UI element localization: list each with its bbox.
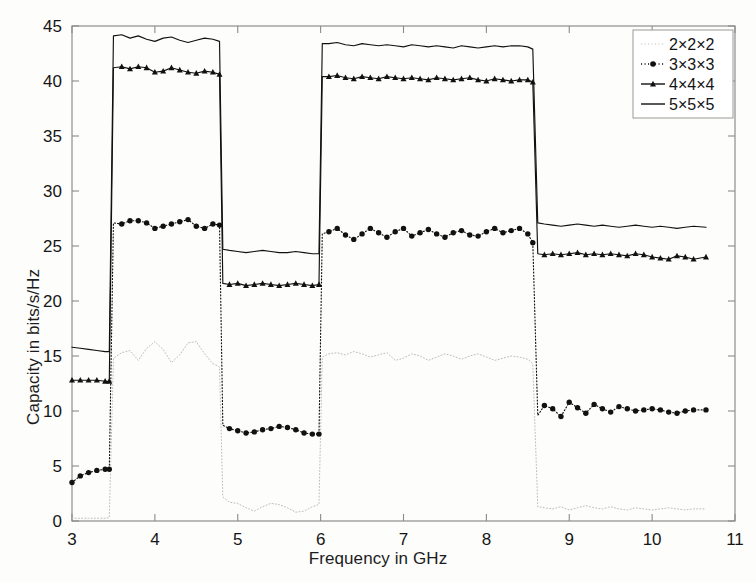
chart-canvas: 345678910110510152025303540452×2×23×3×34… [0,0,756,582]
x-tick-label: 8 [482,530,491,549]
series-marker [160,224,165,229]
series-marker [310,431,315,436]
series-marker [641,407,646,412]
series-marker [567,400,572,405]
series-marker [509,228,514,233]
y-tick-label: 15 [43,347,62,366]
y-axis-title: Capacity in bits/s/Hz [24,269,44,425]
legend-label-2: 3×3×3 [669,56,714,73]
series-marker [185,217,190,222]
series-marker [492,76,498,82]
series-line [72,342,706,519]
series-marker [426,227,431,232]
series-line [72,220,706,483]
series-marker [351,237,356,242]
x-tick-label: 11 [726,530,744,549]
series-marker [384,235,389,240]
legend: 2×2×23×3×34×4×45×5×5 [633,30,733,118]
legend-label-4: 5×5×5 [669,96,714,113]
series-marker [417,230,422,235]
y-tick-label: 20 [43,292,62,311]
x-tick-label: 6 [316,530,325,549]
series-marker [235,428,240,433]
y-tick-label: 30 [43,182,62,201]
series-marker [658,407,663,412]
series-marker [177,219,182,224]
series-marker [467,232,472,237]
y-tick-label: 0 [53,512,62,531]
series-marker [276,424,281,429]
series-marker [703,407,708,412]
x-tick-label: 7 [399,530,408,549]
series-marker [467,75,473,81]
series-1 [72,342,706,519]
series-marker [293,280,299,286]
series-marker [210,221,215,226]
series-marker [78,473,83,478]
series-marker [442,235,447,240]
series-marker [674,411,679,416]
series-marker [335,226,340,231]
series-marker [674,253,680,259]
series-marker [301,430,306,435]
x-axis-title: Frequency in GHz [0,549,756,569]
series-marker [475,233,480,238]
series-marker [260,427,265,432]
series-marker [500,230,505,235]
series-2 [69,217,708,485]
legend-marker-2 [650,61,656,67]
series-marker [135,64,141,70]
series-marker [459,228,464,233]
x-tick-label: 4 [150,530,159,549]
series-marker [492,226,497,231]
series-marker [384,73,390,79]
series-marker [608,251,614,257]
series-marker [343,232,348,237]
series-marker [136,218,141,223]
series-marker [127,218,132,223]
series-marker [591,251,597,257]
series-marker [243,430,248,435]
series-marker [202,226,207,231]
series-marker [285,425,290,430]
series-marker [86,470,91,475]
series-marker [169,221,174,226]
series-marker [368,226,373,231]
series-marker [666,409,671,414]
figure-container: 345678910110510152025303540452×2×23×3×34… [0,0,756,582]
series-marker [168,65,174,71]
series-marker [393,229,398,234]
series-marker [633,408,638,413]
series-marker [359,73,365,79]
series-marker [691,407,696,412]
series-marker [703,254,709,260]
series-marker [525,231,530,236]
x-tick-label: 3 [67,530,76,549]
legend-label-1: 2×2×2 [669,36,714,53]
series-marker [409,233,414,238]
series-marker [235,280,241,286]
series-marker [334,72,340,78]
series-marker [316,431,321,436]
series-marker [550,406,555,411]
series-marker [401,226,406,231]
series-marker [649,406,654,411]
x-tick-label: 9 [565,530,574,549]
series-marker [530,240,535,245]
series-marker [260,280,266,286]
series-marker [558,414,563,419]
series-marker [94,468,99,473]
series-marker [359,231,364,236]
series-marker [625,406,630,411]
x-tick-label: 10 [643,530,662,549]
series-marker [107,467,112,472]
series-marker [575,405,580,410]
series-marker [376,230,381,235]
series-marker [293,427,298,432]
series-marker [542,403,547,408]
series-marker [608,409,613,414]
series-marker [252,429,257,434]
series-marker [591,402,596,407]
series-marker [194,224,199,229]
series-4 [72,35,706,352]
